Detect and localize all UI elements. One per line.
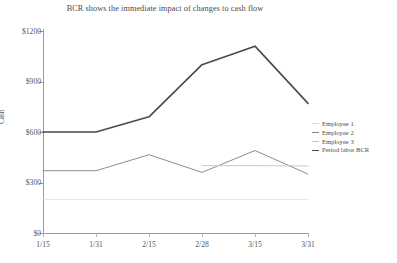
legend-item[interactable]: Employee 2 — [312, 129, 396, 137]
legend-label: Employee 2 — [322, 129, 354, 137]
legend-item[interactable]: Employee 3 — [312, 138, 396, 146]
legend-label: Period labor BCR — [322, 146, 369, 154]
series-line — [43, 46, 308, 132]
legend-swatch-icon — [312, 123, 319, 124]
chart-legend: Employee 1Employee 2Employee 3Period lab… — [312, 120, 396, 155]
legend-label: Employee 3 — [322, 138, 354, 146]
line-chart: BCR shows the immediate impact of change… — [0, 0, 397, 263]
legend-item[interactable]: Employee 1 — [312, 120, 396, 128]
legend-label: Employee 1 — [322, 120, 354, 128]
legend-swatch-icon — [312, 150, 319, 151]
series-line — [43, 151, 308, 175]
legend-swatch-icon — [312, 141, 319, 142]
legend-swatch-icon — [312, 132, 319, 133]
legend-item[interactable]: Period labor BCR — [312, 146, 396, 154]
